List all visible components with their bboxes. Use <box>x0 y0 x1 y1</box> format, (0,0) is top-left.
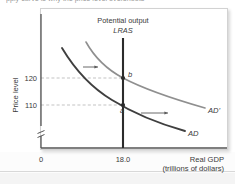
x-tick-label-origin: 0 <box>39 155 43 164</box>
y-tick-label-110: 110 <box>25 101 37 110</box>
shift-arrow-upper-icon <box>83 66 98 69</box>
y-axis-title: Price level <box>11 77 20 112</box>
x-tick-label-18: 18.0 <box>116 155 131 164</box>
chart-svg: 120 110 Price level 0 18.0 Real GDP (tri… <box>0 0 235 184</box>
potential-output-label: Potential output <box>97 16 148 25</box>
point-b-label: b <box>128 70 132 79</box>
y-axis-break-icon <box>38 131 45 138</box>
ad-curve-label: AD <box>187 129 199 138</box>
y-tick-label-120: 120 <box>24 74 37 83</box>
shift-arrow-lower-icon <box>141 112 168 115</box>
point-a-label: a <box>120 106 124 115</box>
point-b-marker <box>121 76 125 80</box>
lras-label: LRAS <box>113 26 132 35</box>
x-axis-title: Real GDP <box>190 155 224 164</box>
ad-prime-curve <box>86 42 205 108</box>
ad-prime-curve-label: AD’ <box>207 106 221 115</box>
figure-root: pply curve is why the price level oversh… <box>0 0 235 184</box>
x-axis-units: (trillions of dollars) <box>162 164 224 173</box>
